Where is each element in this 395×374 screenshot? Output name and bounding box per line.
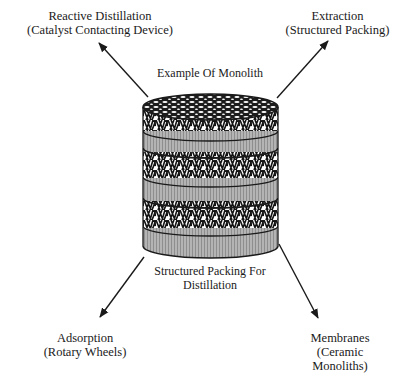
monolith-cylinder xyxy=(140,94,282,265)
label-subtitle: (Rotary Wheels) xyxy=(40,345,130,359)
caption-line-2: Distillation xyxy=(140,278,280,292)
label-title: Reactive Distillation xyxy=(0,9,200,23)
diagram-art xyxy=(0,0,395,374)
label-subtitle: (Structured Packing) xyxy=(280,23,395,37)
arrow-to-membranes xyxy=(279,244,318,318)
label-subtitle-2: Monoliths) xyxy=(300,359,380,373)
label-reactive-distillation: Reactive Distillation (Catalyst Contacti… xyxy=(0,9,200,37)
arrow-to-extraction xyxy=(277,41,328,98)
label-subtitle-1: (Ceramic xyxy=(300,345,380,359)
label-title: Membranes xyxy=(300,331,380,345)
caption-structured-packing: Structured Packing For Distillation xyxy=(140,264,280,292)
label-title: Adsorption xyxy=(40,331,130,345)
caption-line-1: Structured Packing For xyxy=(140,264,280,278)
label-adsorption: Adsorption (Rotary Wheels) xyxy=(40,331,130,359)
caption-example-of-monolith: Example Of Monolith xyxy=(150,66,270,80)
label-membranes: Membranes (Ceramic Monoliths) xyxy=(300,331,380,373)
arrow-to-reactive-distillation xyxy=(99,43,148,97)
label-title: Extraction xyxy=(280,9,395,23)
label-subtitle: (Catalyst Contacting Device) xyxy=(0,23,200,37)
label-extraction: Extraction (Structured Packing) xyxy=(280,9,395,37)
arrow-to-adsorption xyxy=(100,257,144,317)
